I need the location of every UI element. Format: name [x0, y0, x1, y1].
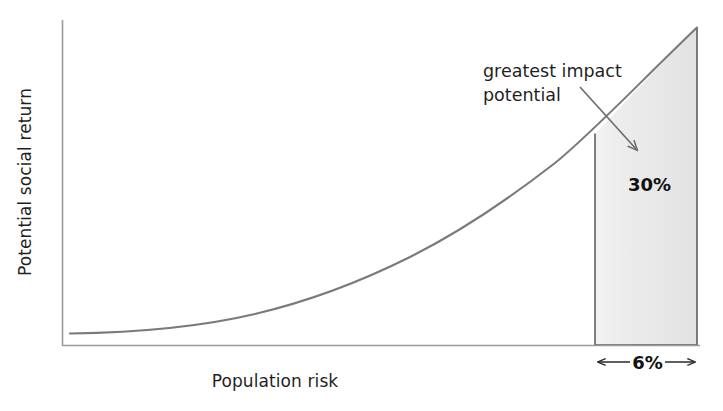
- annotation-line-1: greatest impact: [483, 61, 622, 81]
- annotation-line-2: potential: [483, 85, 561, 105]
- chart-figure: greatest impact potential 30% 6% Populat…: [0, 0, 723, 411]
- region-value-label: 30%: [628, 174, 671, 195]
- measure-value-label: 6%: [632, 352, 663, 373]
- x-axis-title: Population risk: [212, 371, 339, 391]
- y-axis-title: Potential social return: [15, 88, 35, 276]
